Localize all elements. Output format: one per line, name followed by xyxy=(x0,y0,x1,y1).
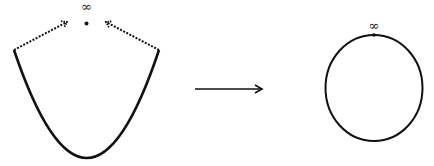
dashed-arrow-right xyxy=(106,22,159,50)
infinity-label-left: ∞ xyxy=(81,0,92,14)
circle-figure: ∞ xyxy=(326,18,423,141)
parabola-curve xyxy=(14,50,159,158)
circle-curve xyxy=(326,35,423,141)
parabola-figure: ∞ xyxy=(14,0,159,158)
dashed-arrow-left xyxy=(14,22,67,50)
infinity-point-on-circle xyxy=(372,33,376,37)
point-at-infinity-dot xyxy=(85,22,89,26)
infinity-label-right: ∞ xyxy=(369,18,380,33)
diagram-canvas: ∞ ∞ xyxy=(0,0,434,166)
